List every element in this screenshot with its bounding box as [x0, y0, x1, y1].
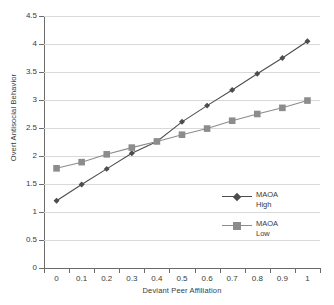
legend-item-maoa-high[interactable]: MAOA High [222, 190, 322, 210]
data-point-diamond [129, 150, 135, 156]
series-maoa-low [53, 97, 311, 171]
data-point-diamond [254, 71, 260, 77]
data-point-square [154, 138, 161, 145]
chart-container: Overt Antisocial Behavior 00.511.522.533… [0, 0, 334, 305]
x-axis-title: Deviant Peer Affiliation [44, 286, 320, 295]
legend-marker-diamond-icon [222, 191, 252, 202]
legend-item-maoa-low[interactable]: MAOA Low [222, 219, 322, 239]
legend-label-line2: High [256, 200, 271, 209]
data-point-diamond [54, 198, 60, 204]
data-point-square [304, 97, 311, 104]
data-point-square [254, 111, 261, 118]
data-point-diamond [279, 55, 285, 61]
chart-legend: MAOA High MAOA Low [222, 190, 322, 248]
data-point-diamond [204, 103, 210, 109]
data-point-square [129, 144, 136, 151]
legend-marker-square-icon [222, 220, 252, 231]
data-point-square [53, 165, 60, 172]
data-point-diamond [304, 38, 310, 44]
data-point-square [179, 131, 186, 138]
data-point-square [279, 105, 286, 112]
series-layer [0, 0, 334, 305]
data-point-diamond [79, 182, 85, 188]
legend-label-maoa-high: MAOA High [252, 190, 278, 210]
series-maoa-high [54, 38, 311, 204]
data-point-square [103, 151, 110, 158]
data-point-square [204, 125, 211, 132]
legend-label-line2: Low [256, 229, 270, 238]
data-point-square [78, 159, 85, 166]
legend-label-line1: MAOA [256, 219, 278, 228]
data-point-diamond [229, 87, 235, 93]
legend-label-line1: MAOA [256, 190, 278, 199]
legend-label-maoa-low: MAOA Low [252, 219, 278, 239]
data-point-diamond [104, 166, 110, 172]
data-point-square [229, 117, 236, 124]
